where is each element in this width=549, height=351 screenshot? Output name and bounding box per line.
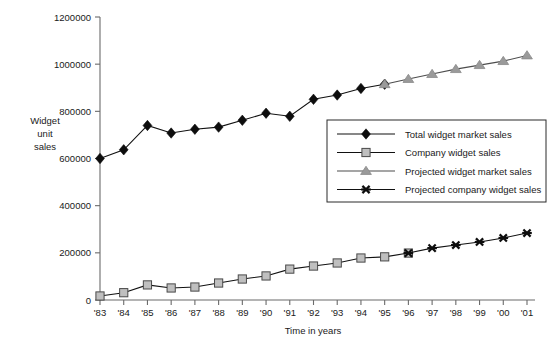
y-tick-label: 400000 [59, 200, 91, 211]
x-data-point [475, 238, 485, 245]
y-tick-label: 0 [86, 295, 91, 306]
x-axis-title: Time in years [285, 325, 342, 336]
x-axis-title-text: Time in years [285, 325, 342, 336]
square-data-point [215, 279, 223, 287]
series-1 [96, 249, 413, 300]
x-tick-label: '93 [331, 307, 343, 318]
legend-item-label: Total widget market sales [405, 129, 512, 140]
x-tick-label: '85 [141, 307, 153, 318]
x-data-point [498, 234, 508, 241]
square-data-point [357, 254, 365, 262]
x-tick-label: '96 [402, 307, 414, 318]
x-tick-label: '91 [284, 307, 296, 318]
y-tick-label: 200000 [59, 247, 91, 258]
diamond-data-point [262, 108, 271, 118]
x-tick-label: '88 [212, 307, 224, 318]
y-axis-title-line: unit [37, 128, 53, 139]
x-tick-label: '99 [473, 307, 485, 318]
square-data-point [167, 284, 175, 292]
legend-item-label: Company widget sales [405, 147, 501, 158]
x-data-point [522, 229, 532, 236]
square-data-point [120, 289, 128, 297]
x-tick-label: '97 [426, 307, 438, 318]
x-tick-label: '83 [94, 307, 106, 318]
chart-legend: Total widget market salesCompany widget … [327, 120, 546, 202]
x-data-point [451, 241, 461, 248]
series-line [408, 233, 527, 253]
x-tick-label: '92 [307, 307, 319, 318]
x-tick-label: '01 [521, 307, 533, 318]
x-tick-label: '87 [189, 307, 201, 318]
square-data-point [143, 281, 151, 289]
square-data-point [381, 253, 389, 261]
x-axis: '83'84'85'86'87'88'89'90'91'92'93'94'95'… [94, 300, 535, 318]
diamond-data-point [190, 124, 199, 134]
square-data-point [262, 272, 270, 280]
triangle-data-point [522, 51, 533, 59]
diamond-data-point [285, 111, 294, 121]
legend-square-icon [362, 148, 370, 156]
square-data-point [238, 275, 246, 283]
diamond-data-point [309, 94, 318, 104]
square-data-point [286, 265, 294, 273]
x-tick-label: '90 [260, 307, 272, 318]
y-tick-label: 600000 [59, 153, 91, 164]
y-tick-label: 1200000 [54, 12, 91, 23]
diamond-data-point [238, 115, 247, 125]
x-tick-label: '89 [236, 307, 248, 318]
chart-container: 020000040000060000080000010000001200000 … [0, 0, 549, 351]
y-tick-label: 800000 [59, 106, 91, 117]
diamond-data-point [167, 128, 176, 138]
y-axis: 020000040000060000080000010000001200000 [54, 12, 100, 306]
square-data-point [309, 262, 317, 270]
legend-item-label: Projected widget market sales [405, 166, 532, 177]
legend-item-label: Projected company widget sales [405, 184, 541, 195]
x-data-point [427, 245, 437, 252]
x-tick-label: '95 [378, 307, 390, 318]
x-tick-label: '98 [450, 307, 462, 318]
y-axis-title: Widgetunitsales [30, 115, 60, 152]
y-axis-title-line: Widget [30, 115, 60, 126]
widget-sales-line-chart: 020000040000060000080000010000001200000 … [0, 0, 549, 351]
series-2 [379, 51, 532, 88]
series-3 [404, 229, 532, 256]
x-tick-label: '00 [497, 307, 509, 318]
diamond-data-point [333, 90, 342, 100]
x-tick-label: '94 [355, 307, 367, 318]
x-tick-label: '84 [118, 307, 130, 318]
x-tick-label: '86 [165, 307, 177, 318]
diamond-data-point [357, 83, 366, 93]
y-tick-label: 1000000 [54, 59, 91, 70]
y-axis-title-line: sales [34, 141, 56, 152]
diamond-data-point [96, 153, 105, 163]
square-data-point [191, 283, 199, 291]
diamond-data-point [214, 122, 223, 132]
square-data-point [333, 259, 341, 267]
legend-item-1[interactable]: Company widget sales [337, 147, 501, 158]
square-data-point [96, 292, 104, 300]
